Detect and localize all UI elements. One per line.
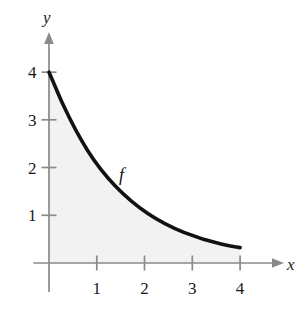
y-axis-arrowhead bbox=[44, 32, 54, 44]
y-axis-label: y bbox=[43, 9, 51, 26]
x-axis-label: x bbox=[287, 256, 295, 273]
y-tick-label-2: 2 bbox=[28, 159, 37, 176]
figure-container: y x f 1 2 3 4 1 2 3 4 bbox=[0, 0, 301, 319]
y-tick-label-4: 4 bbox=[28, 64, 37, 81]
x-tick-label-3: 3 bbox=[188, 280, 197, 297]
x-tick-label-4: 4 bbox=[236, 280, 245, 297]
curve-label-f: f bbox=[119, 166, 124, 184]
x-tick-label-2: 2 bbox=[140, 280, 149, 297]
x-tick-label-1: 1 bbox=[93, 280, 102, 297]
shaded-area-under-curve bbox=[49, 72, 240, 263]
x-axis-arrowhead bbox=[272, 258, 284, 268]
y-tick-label-1: 1 bbox=[28, 207, 37, 224]
function-plot bbox=[0, 0, 301, 319]
y-tick-label-3: 3 bbox=[28, 111, 37, 128]
